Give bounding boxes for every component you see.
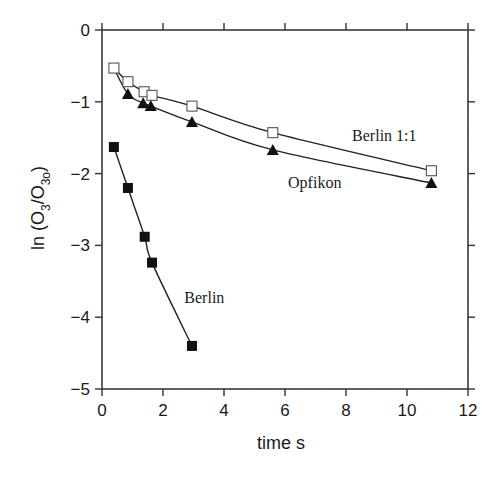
y-tick-label: −3 <box>71 236 90 255</box>
open-square-marker <box>123 77 133 87</box>
y-tick-label: −1 <box>71 93 90 112</box>
series-label: Berlin <box>184 289 224 306</box>
x-axis-ticks: 024681012 <box>97 23 477 420</box>
x-tick-label: 8 <box>341 401 350 420</box>
x-tick-label: 6 <box>280 401 289 420</box>
chart: 024681012 0−1−2−3−4−5 Berlin 1:1OpfikonB… <box>0 0 502 480</box>
filled-square-marker <box>109 142 119 152</box>
x-tick-label: 0 <box>97 401 106 420</box>
series-label: Berlin 1:1 <box>352 127 416 144</box>
open-square-marker <box>426 166 436 176</box>
filled-triangle-marker <box>122 88 134 99</box>
series-markers <box>109 63 438 351</box>
filled-square-marker <box>187 341 197 351</box>
y-tick-label: −4 <box>71 308 90 327</box>
y-tick-label: −5 <box>71 380 90 399</box>
series-label: Opfikon <box>288 174 341 192</box>
filled-square-marker <box>140 232 150 242</box>
y-tick-label: −2 <box>71 165 90 184</box>
y-axis-title: ln (O3/O3o) <box>28 166 53 250</box>
plot-frame <box>102 30 468 389</box>
y-tick-label: 0 <box>81 21 90 40</box>
x-tick-label: 2 <box>158 401 167 420</box>
series-annotations: Berlin 1:1OpfikonBerlin <box>184 127 416 306</box>
open-square-marker <box>109 63 119 73</box>
filled-triangle-marker <box>186 116 198 127</box>
filled-square-marker <box>123 183 133 193</box>
x-tick-label: 10 <box>398 401 417 420</box>
open-square-marker <box>187 101 197 111</box>
svg-text:ln (O3/O3o): ln (O3/O3o) <box>28 166 53 250</box>
open-square-marker <box>147 90 157 100</box>
open-square-marker <box>268 128 278 138</box>
series-curves <box>114 68 432 346</box>
filled-square-marker <box>147 258 157 268</box>
series-curve <box>114 147 192 346</box>
series-curve <box>114 68 432 171</box>
plot-axes <box>101 29 469 390</box>
x-axis-title: time s <box>257 433 305 453</box>
x-tick-label: 12 <box>459 401 478 420</box>
x-tick-label: 4 <box>219 401 228 420</box>
series-curve <box>114 68 432 183</box>
